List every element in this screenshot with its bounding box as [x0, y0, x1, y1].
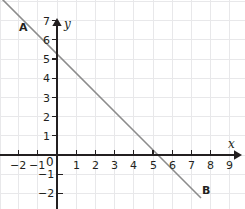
y-axis-arrow	[52, 18, 61, 26]
x-tick-label-5: 5	[150, 160, 157, 171]
x-axis-arrow	[234, 150, 242, 159]
x-tick-label-9: 9	[226, 160, 233, 171]
y-tick-label-7: 7	[43, 16, 50, 27]
y-tick-label-1: 1	[43, 131, 50, 142]
y-tick-label-4: 4	[43, 73, 50, 84]
x-tick-label-3: 3	[111, 160, 118, 171]
y-tick-label-6: 6	[43, 35, 50, 46]
y-tick-label-5: 5	[43, 54, 50, 65]
x-tick-label-1: 1	[73, 160, 80, 171]
x-tick-label-2: 2	[92, 160, 99, 171]
y-tick-label--2: −2	[38, 188, 54, 199]
x-tick-label-8: 8	[207, 160, 214, 171]
point-label-a: A	[19, 22, 28, 33]
y-tick-label-3: 3	[43, 93, 50, 104]
y-tick-label--1: −1	[38, 169, 54, 180]
x-tick-label--2: −2	[10, 160, 26, 171]
coordinate-graph: −2 −1 0 1 2 3 4 5 6 7 8 9 −2 −1 1 2 3 4 …	[0, 0, 245, 209]
x-axis-label: x	[228, 138, 235, 150]
origin-label: 0	[46, 156, 54, 168]
plot-area	[0, 0, 245, 209]
grid-lines	[0, 0, 245, 209]
y-axis-label: y	[64, 18, 71, 30]
point-label-b: B	[202, 185, 210, 196]
x-tick-label-7: 7	[188, 160, 195, 171]
y-tick-label-2: 2	[43, 112, 50, 123]
x-tick-label-4: 4	[130, 160, 137, 171]
x-tick-label-6: 6	[169, 160, 176, 171]
